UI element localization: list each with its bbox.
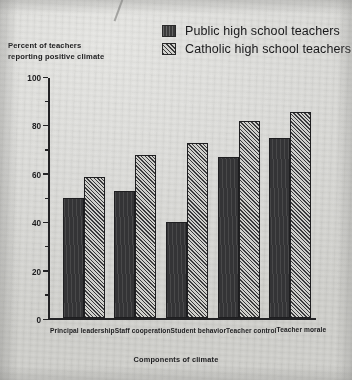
y-tick-label: 0 — [36, 316, 41, 325]
y-tick-major — [43, 173, 48, 174]
bar-group — [161, 78, 213, 318]
y-axis-title-line2: reporting positive climate — [8, 51, 104, 62]
plot-area: 020406080100 — [48, 78, 316, 320]
y-tick-minor — [45, 246, 48, 247]
bar-catholic — [84, 177, 105, 319]
bar-catholic — [239, 121, 260, 318]
legend-swatch-hatch-icon — [162, 43, 176, 55]
x-category-label: Principal leadership — [50, 327, 115, 334]
x-category-label: Staff cooperation — [115, 327, 171, 334]
bar-public — [114, 191, 135, 318]
bar-groups — [50, 78, 316, 318]
y-tick-minor — [45, 149, 48, 150]
bar-group — [58, 78, 110, 318]
bar-chart-figure: Public high school teachers Catholic hig… — [0, 0, 352, 380]
y-tick-major — [43, 319, 48, 320]
legend-item-catholic: Catholic high school teachers — [162, 42, 351, 56]
x-category-label: Student behavior — [171, 327, 226, 334]
y-tick-label: 20 — [32, 267, 41, 276]
bar-catholic — [187, 143, 208, 318]
legend-label-catholic: Catholic high school teachers — [185, 42, 351, 56]
y-tick-label: 40 — [32, 219, 41, 228]
bar-group — [213, 78, 265, 318]
legend-label-public: Public high school teachers — [185, 24, 340, 38]
y-axis-title-line1: Percent of teachers — [8, 40, 104, 51]
x-axis-line — [48, 318, 316, 320]
y-tick-major — [43, 77, 48, 78]
x-axis-category-labels: Principal leadershipStaff cooperationStu… — [50, 327, 316, 334]
bar-public — [63, 198, 84, 318]
bar-public — [218, 157, 239, 318]
y-tick-major — [43, 125, 48, 126]
y-tick-label: 100 — [27, 74, 41, 83]
y-tick-major — [43, 222, 48, 223]
y-tick-minor — [45, 198, 48, 199]
x-category-label: Teacher morale — [277, 326, 327, 333]
y-tick-minor — [45, 294, 48, 295]
bar-group — [110, 78, 162, 318]
bar-public — [166, 222, 187, 318]
bar-group — [264, 78, 316, 318]
legend-swatch-solid-icon — [162, 25, 176, 37]
y-tick-label: 60 — [32, 170, 41, 179]
y-tick-minor — [45, 101, 48, 102]
x-axis-title: Components of climate — [0, 355, 352, 364]
x-category-label: Teacher control — [226, 327, 276, 334]
chart-legend: Public high school teachers Catholic hig… — [162, 24, 351, 56]
bar-public — [269, 138, 290, 318]
legend-item-public: Public high school teachers — [162, 24, 351, 38]
y-tick-label: 80 — [32, 122, 41, 131]
y-tick-major — [43, 270, 48, 271]
bar-catholic — [135, 155, 156, 318]
bar-catholic — [290, 112, 311, 319]
y-axis-title: Percent of teachers reporting positive c… — [8, 40, 104, 63]
